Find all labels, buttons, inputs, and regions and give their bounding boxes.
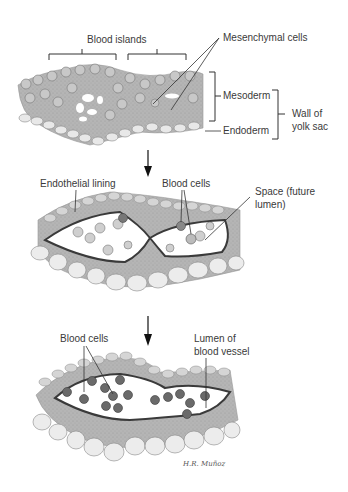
label-blood-cells-stage3: Blood cells <box>60 333 108 345</box>
label-mesoderm: Mesoderm <box>223 90 270 102</box>
label-blood-cells-stage2: Blood cells <box>162 178 210 190</box>
label-lumen-of-blood-vessel-line2: blood vessel <box>194 346 250 358</box>
label-blood-islands: Blood islands <box>87 34 146 46</box>
label-space-future-lumen-line1: Space (future <box>255 186 315 198</box>
label-endoderm: Endoderm <box>223 125 269 137</box>
arrow-stage-1-to-2 <box>144 150 152 177</box>
label-endothelial-lining: Endothelial lining <box>40 178 116 190</box>
label-wall-of-yolk-sac-line2: yolk sac <box>292 121 328 133</box>
label-wall-of-yolk-sac-line1: Wall of <box>292 108 322 120</box>
artist-signature: H.R. Muñoz <box>183 460 225 468</box>
diagram-artwork <box>0 0 348 492</box>
stage-2-illustration <box>31 190 250 291</box>
label-mesenchymal-cells: Mesenchymal cells <box>223 32 307 44</box>
stage-3-illustration <box>33 346 240 461</box>
arrow-stage-2-to-3 <box>144 316 152 346</box>
label-space-future-lumen-line2: lumen) <box>255 199 286 211</box>
label-lumen-of-blood-vessel-line1: Lumen of <box>194 333 236 345</box>
